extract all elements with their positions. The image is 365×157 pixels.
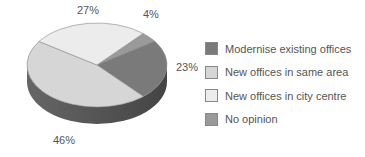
label-modernise: 23% (176, 61, 198, 73)
label-city-centre: 27% (77, 4, 99, 16)
legend-swatch (205, 66, 218, 79)
legend-item-city-centre: New offices in city centre (205, 84, 351, 108)
pie-chart (0, 0, 200, 157)
legend-swatch (205, 42, 218, 55)
legend-swatch (205, 113, 218, 126)
legend: Modernise existing offices New offices i… (205, 37, 351, 131)
label-no-opinion: 4% (143, 8, 159, 20)
legend-item-modernise: Modernise existing offices (205, 37, 351, 61)
legend-item-same-area: New offices in same area (205, 61, 351, 85)
legend-item-no-opinion: No opinion (205, 108, 351, 132)
legend-swatch (205, 89, 218, 102)
label-same-area: 46% (53, 134, 75, 146)
